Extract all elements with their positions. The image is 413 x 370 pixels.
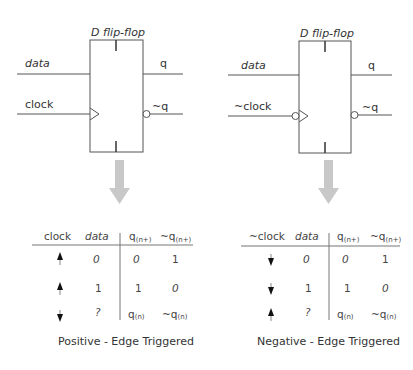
left-header-data: data <box>85 230 109 242</box>
left-row2-nq: 0 <box>172 282 179 294</box>
left-header-clock: clock <box>44 230 72 242</box>
left-row3-q: q(n) <box>128 308 145 321</box>
left-row3-data: ? <box>95 306 101 318</box>
right-row2-data: 1 <box>305 282 312 294</box>
right-row1-nq: 1 <box>382 253 389 265</box>
left-rising-edge-icon <box>57 282 63 295</box>
right-row3-data: ? <box>305 306 311 318</box>
left-rising-edge-icon <box>57 252 63 265</box>
right-row2-q: 1 <box>344 282 351 294</box>
right-truth-table: ~clock data q(n+) ~q(n+) 0 0 1 1 1 0 ? q… <box>241 230 402 348</box>
right-q-label: q <box>368 59 375 72</box>
left-inversion-bubble-icon <box>143 111 150 118</box>
right-rising-edge-icon <box>268 308 274 321</box>
left-nq-label: ~q <box>152 100 168 113</box>
right-down-arrow-icon <box>318 160 339 204</box>
left-clock-triangle-icon <box>90 108 99 120</box>
left-row1-q: 0 <box>133 253 140 265</box>
left-down-arrow-icon <box>109 160 130 204</box>
right-falling-edge-icon <box>268 283 274 295</box>
right-row2-nq: 0 <box>382 282 389 294</box>
right-row1-data: 0 <box>303 253 310 265</box>
right-header-nq: ~q(n+) <box>370 230 402 244</box>
left-flip-flop-box <box>90 40 143 152</box>
right-row3-q: q(n) <box>337 308 354 321</box>
right-header-q: q(n+) <box>337 230 360 244</box>
left-falling-edge-icon <box>57 310 63 322</box>
right-clock-triangle-icon <box>299 110 308 122</box>
right-flip-flop: D flip-flop data ~clock q ~q <box>228 27 392 204</box>
left-row3-nq: ~q(n) <box>162 308 188 321</box>
left-row2-q: 1 <box>135 282 142 294</box>
right-nq-label: ~q <box>362 101 378 114</box>
left-clock-label: clock <box>25 98 54 111</box>
right-caption: Negative - Edge Triggered <box>257 335 400 348</box>
right-row1-q: 0 <box>342 253 349 265</box>
right-inversion-bubble-icon <box>351 112 358 119</box>
right-row3-nq: ~q(n) <box>371 308 397 321</box>
left-caption: Positive - Edge Triggered <box>58 335 194 348</box>
left-row2-data: 1 <box>95 282 102 294</box>
right-flip-flop-title: D flip-flop <box>300 27 354 40</box>
left-truth-table: clock data q(n+) ~q(n+) 0 0 1 1 1 0 ? q(… <box>32 230 194 348</box>
right-clock-label: ~clock <box>234 100 272 113</box>
right-header-clock: ~clock <box>249 230 286 242</box>
right-header-data: data <box>295 230 319 242</box>
left-row1-data: 0 <box>93 253 100 265</box>
right-falling-edge-icon <box>268 254 274 266</box>
left-row1-nq: 1 <box>172 253 179 265</box>
left-header-q: q(n+) <box>129 230 152 244</box>
left-q-label: q <box>160 57 167 70</box>
left-flip-flop-title: D flip-flop <box>91 26 145 39</box>
right-flip-flop-box <box>299 41 351 153</box>
left-data-label: data <box>25 57 50 70</box>
left-flip-flop: D flip-flop data clock q ~q <box>17 26 183 204</box>
left-header-nq: ~q(n+) <box>160 230 192 244</box>
right-data-label: data <box>241 59 266 72</box>
right-clock-inversion-bubble-icon <box>292 113 299 120</box>
